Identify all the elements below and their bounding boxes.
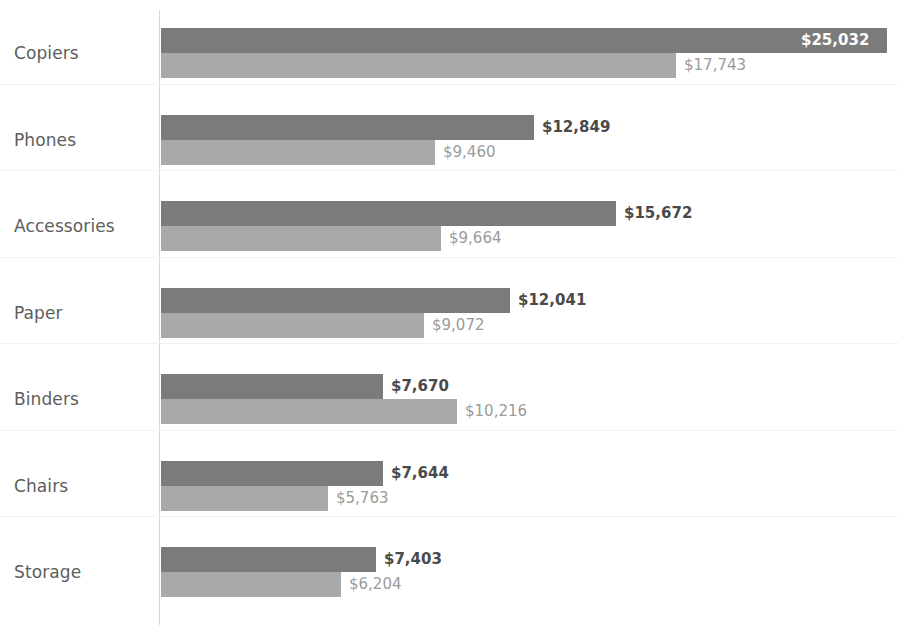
bar-value-label-primary-paper: $12,041 — [518, 288, 586, 313]
row-separator — [0, 430, 899, 431]
category-label-storage: Storage — [14, 562, 81, 582]
bar-secondary-binders[interactable] — [161, 399, 457, 424]
bar-value-label-primary-binders: $7,670 — [391, 374, 449, 399]
bar-secondary-phones[interactable] — [161, 140, 435, 165]
category-label-copiers: Copiers — [14, 43, 79, 63]
row-separator — [0, 257, 899, 258]
bar-value-label-secondary-chairs: $5,763 — [336, 486, 389, 511]
bar-primary-accessories[interactable] — [161, 201, 616, 226]
bar-secondary-copiers[interactable] — [161, 53, 676, 78]
bar-primary-phones[interactable] — [161, 115, 534, 140]
bar-secondary-storage[interactable] — [161, 572, 341, 597]
bar-value-label-primary-accessories: $15,672 — [624, 201, 692, 226]
bar-value-label-primary-storage: $7,403 — [384, 547, 442, 572]
bar-secondary-accessories[interactable] — [161, 226, 441, 251]
bar-value-label-primary-chairs: $7,644 — [391, 461, 449, 486]
bar-primary-chairs[interactable] — [161, 461, 383, 486]
bar-value-label-primary-copiers: $25,032 — [801, 28, 869, 53]
bar-secondary-chairs[interactable] — [161, 486, 328, 511]
row-separator — [0, 84, 899, 85]
bar-primary-storage[interactable] — [161, 547, 376, 572]
row-separator — [0, 170, 899, 171]
bar-chart: Copiers$25,032$17,743Phones$12,849$9,460… — [0, 0, 899, 625]
bar-secondary-paper[interactable] — [161, 313, 424, 338]
category-axis-line — [159, 10, 160, 625]
row-separator — [0, 516, 899, 517]
bar-value-label-secondary-copiers: $17,743 — [684, 53, 746, 78]
category-label-accessories: Accessories — [14, 216, 115, 236]
bar-value-label-secondary-phones: $9,460 — [443, 140, 496, 165]
bar-primary-copiers[interactable] — [161, 28, 887, 53]
row-separator — [0, 343, 899, 344]
category-label-binders: Binders — [14, 389, 79, 409]
bar-value-label-secondary-binders: $10,216 — [465, 399, 527, 424]
category-label-paper: Paper — [14, 303, 63, 323]
bar-primary-binders[interactable] — [161, 374, 383, 399]
bar-value-label-secondary-accessories: $9,664 — [449, 226, 502, 251]
bar-value-label-secondary-storage: $6,204 — [349, 572, 402, 597]
category-label-chairs: Chairs — [14, 476, 68, 496]
category-label-phones: Phones — [14, 130, 76, 150]
bar-value-label-primary-phones: $12,849 — [542, 115, 610, 140]
bar-value-label-secondary-paper: $9,072 — [432, 313, 485, 338]
bar-primary-paper[interactable] — [161, 288, 510, 313]
